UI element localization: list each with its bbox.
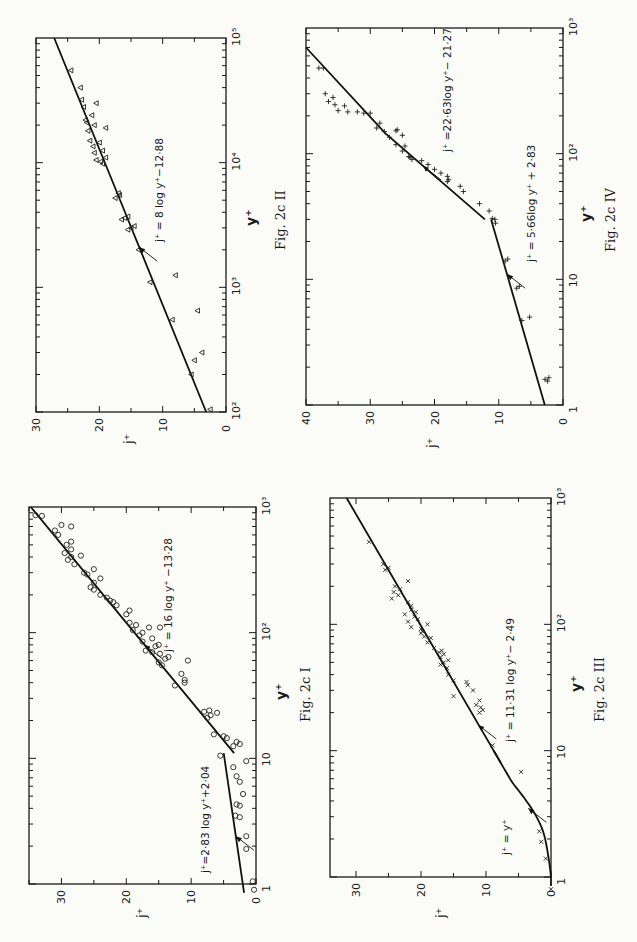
data-point-circle [133, 622, 138, 627]
j-plus-tick-label: 20 [429, 411, 442, 425]
data-point-circle [59, 522, 64, 527]
y-plus-tick-label: 10 [567, 273, 580, 287]
data-point-plus [492, 217, 497, 222]
chart-fig2c-II: 10²10³10⁴10⁵0102030 j⁺ = 8 log y⁺−12·88 … [30, 28, 288, 445]
data-point-circle [156, 642, 161, 647]
data-point-circle [91, 567, 96, 572]
data-point-triangle [195, 308, 200, 313]
data-point-triangle [199, 350, 204, 355]
data-point-plus [461, 189, 466, 194]
data-point-triangle [173, 273, 178, 278]
data-point-triangle [98, 159, 103, 164]
fit-equation-label-upper: j⁺ = 11·31 log y⁺− 2·49 [504, 618, 516, 743]
data-point-circle [150, 636, 155, 641]
j-plus-tick-label: 20 [415, 883, 428, 897]
y-plus-tick-label: 10³ [230, 277, 243, 295]
data-point-circle [214, 710, 219, 715]
data-point-x [414, 610, 418, 614]
fit-line [224, 753, 244, 893]
figure-2c-panels: 10²10³10⁴10⁵0102030 j⁺ = 8 log y⁺−12·88 … [0, 0, 637, 942]
data-point-x [392, 590, 396, 594]
j-plus-tick-label: 20 [93, 418, 106, 432]
data-point-plus [458, 184, 463, 189]
data-point-plus [316, 65, 321, 70]
data-point-triangle [148, 280, 153, 285]
data-point-x [478, 698, 482, 702]
y-plus-tick-label: 1 [260, 885, 273, 892]
data-point-triangle [89, 113, 94, 118]
data-point-circle [237, 803, 242, 808]
data-point-x [479, 705, 483, 709]
data-point-x [539, 840, 543, 844]
j-plus-tick-label: 10 [493, 411, 506, 425]
x-axis-title: y⁺ [568, 675, 584, 692]
y-axis-title: j⁺ [121, 434, 136, 445]
data-point-x [367, 540, 371, 544]
data-point-x [537, 829, 541, 833]
data-point-circle [179, 671, 184, 676]
data-point-plus [393, 128, 398, 133]
data-point-plus [336, 108, 341, 113]
y-plus-tick-label: 10⁴ [230, 152, 243, 171]
data-point-plus [393, 142, 398, 147]
data-point-circle [244, 834, 249, 839]
data-point-circle [153, 644, 158, 649]
data-point-circle [207, 708, 212, 713]
data-point-plus [493, 221, 498, 226]
plot-area: 10²10³10⁴10⁵0102030 [30, 28, 243, 432]
fit-equation-label-lower: j⁺ = y⁺ [500, 819, 512, 856]
data-point-x [429, 636, 433, 640]
j-plus-tick-label: 10 [185, 890, 198, 904]
data-point-triangle [192, 358, 197, 363]
data-point-x [426, 640, 430, 644]
data-point-triangle [208, 407, 213, 412]
data-point-plus [330, 95, 335, 100]
data-point-plus [477, 201, 482, 206]
fit-equation-label-lower: j⁺=2·83 log y⁺+2·04 [199, 765, 211, 874]
chart-fig2c-I: 11010²10³0102030 j⁺ = 16 log y⁺ −13·28 j… [29, 497, 313, 919]
data-point-triangle [92, 123, 97, 128]
x-axis-title: y⁺ [243, 209, 259, 226]
data-point-triangle [94, 158, 99, 163]
fit-equation-label-upper: j⁺ =22·63log y⁺− 21·27 [441, 28, 453, 153]
data-point-x [406, 620, 410, 624]
j-plus-tick-label: 20 [120, 890, 133, 904]
y-axis-title: j⁺ [424, 438, 439, 449]
fit-equation-label: j⁺ = 8 log y⁺−12·88 [153, 138, 165, 243]
y-plus-tick-label: 10² [260, 622, 273, 640]
data-point-circle [78, 553, 83, 558]
data-point-circle [250, 879, 255, 884]
data-point-circle [98, 576, 103, 581]
fit-equation-label-upper: j⁺ = 16 log y⁺ −13·28 [162, 538, 174, 653]
fit-equation-label-lower: j⁺ = 5·66log y⁺ + 2·83 [525, 145, 537, 263]
y-plus-tick-label: 10⁵ [230, 28, 243, 46]
data-point-circle [69, 539, 74, 544]
j-plus-tick-label: 30 [364, 411, 377, 425]
plot-area: 11010²10³0102030 [29, 497, 273, 904]
y-plus-tick-label: 1 [555, 878, 568, 885]
data-point-x [409, 625, 413, 629]
data-point-plus [425, 162, 430, 167]
data-point-x [426, 622, 430, 626]
j-plus-tick-label: 40 [300, 411, 313, 425]
data-point-circle [65, 557, 70, 562]
data-point-x [393, 584, 397, 588]
fit-line [306, 48, 485, 220]
plot-frame [330, 498, 551, 877]
data-point-circle [69, 524, 74, 529]
data-point-x [439, 663, 443, 667]
data-point-x [544, 857, 548, 861]
data-point-x [519, 770, 523, 774]
data-point-triangle [103, 125, 108, 130]
data-point-circle [72, 562, 77, 567]
data-point-circle [62, 550, 67, 555]
data-point-circle [211, 732, 216, 737]
data-point-plus [487, 208, 492, 213]
data-point-circle [114, 603, 119, 608]
y-axis-title: j⁺ [433, 908, 448, 919]
chart-fig2c-III: 11010²10³0102030 j⁺ = 11·31 log y⁺− 2·49… [330, 488, 607, 919]
data-point-circle [244, 759, 249, 764]
y-plus-tick-label: 10 [555, 745, 568, 759]
data-point-plus [342, 103, 347, 108]
data-point-plus [432, 167, 437, 172]
